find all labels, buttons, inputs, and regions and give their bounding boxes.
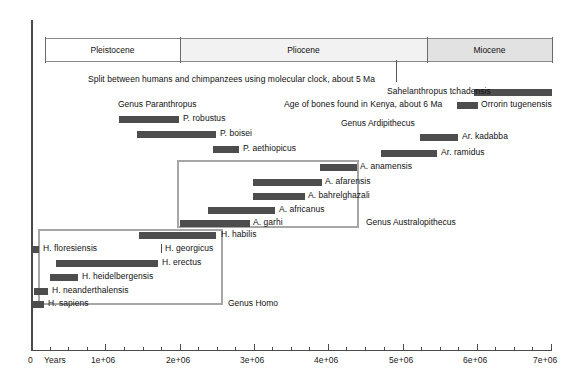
x-axis-minor-tick	[124, 347, 125, 351]
x-axis-minor-tick	[421, 347, 422, 351]
label-a-africanus: A. africanus	[279, 204, 324, 214]
genus-label-australopithecus: Genus Australopithecus	[366, 217, 456, 227]
x-axis-minor-tick	[346, 347, 347, 351]
x-axis-label-6e6: 6e+06	[463, 355, 487, 365]
label-h-habilis: H. habilis	[221, 229, 256, 239]
x-axis-label-1e6: 1e+06	[91, 355, 115, 365]
label-ar-ramidus: Ar. ramidus	[441, 147, 485, 157]
x-axis-minor-tick	[384, 347, 385, 351]
x-axis-label-4e6: 4e+06	[314, 355, 338, 365]
x-axis-tick-3e6	[254, 344, 255, 351]
label-a-garhi: A. garhi	[253, 217, 283, 227]
bar-a-bahrelghazali	[253, 193, 305, 200]
bar-h-erectus	[56, 260, 158, 267]
x-axis-label-2e6: 2e+06	[166, 355, 190, 365]
label-h-erectus: H. erectus	[162, 257, 201, 267]
x-axis-label-7e6: 7e+06	[533, 355, 557, 365]
x-axis-tick-2e6	[180, 344, 181, 351]
epoch-separator-pleistocene-pliocene	[180, 37, 181, 63]
epoch-label-pliocene: Pliocene	[287, 45, 320, 55]
x-axis-minor-tick	[235, 347, 236, 351]
label-p-robustus: P. robustus	[183, 113, 225, 123]
epoch-band-miocene: Miocene	[427, 38, 552, 62]
bar-p-aethiopicus	[213, 146, 239, 153]
epoch-band-pliocene: Pliocene	[180, 38, 427, 62]
x-axis-minor-tick	[495, 347, 496, 351]
epoch-separator-left	[45, 37, 46, 63]
x-axis-minor-tick	[532, 347, 533, 351]
label-h-floresiensis: H. floresiensis	[43, 243, 97, 253]
bar-h-habilis	[139, 232, 216, 239]
bar-orrorin-tugenensis	[457, 102, 478, 109]
x-axis-label-5e6: 5e+06	[389, 355, 413, 365]
x-axis-minor-tick	[68, 347, 69, 351]
x-axis-tick-1e6	[105, 344, 106, 351]
epoch-separator-pliocene-miocene	[427, 37, 428, 63]
label-sahelanthropus-tchadensis: Sahelanthropus tchadensis	[387, 86, 491, 96]
x-axis-tick-7e6	[551, 344, 552, 351]
x-axis-minor-tick	[87, 347, 88, 351]
label-h-georgicus: H. georgicus	[165, 243, 213, 253]
bar-p-robustus	[119, 116, 179, 123]
marker-line-5ma	[396, 60, 397, 82]
label-ar-kadabba: Ar. kadabba	[462, 131, 508, 141]
bar-a-anamensis	[320, 164, 357, 171]
label-a-bahrelghazali: A. bahrelghazali	[308, 190, 370, 200]
label-h-sapiens: H. sapiens	[48, 298, 89, 308]
bar-ar-kadabba	[420, 134, 458, 141]
bar-a-africanus	[208, 207, 275, 214]
bar-h-georgicus	[161, 244, 162, 253]
label-p-aethiopicus: P. aethiopicus	[243, 143, 296, 153]
bar-h-sapiens	[33, 301, 44, 308]
label-h-neanderthalensis: H. neanderthalensis	[52, 285, 129, 295]
x-axis-tick-5e6	[403, 344, 404, 351]
x-axis-minor-tick	[291, 347, 292, 351]
bar-a-afarensis	[253, 179, 322, 186]
bar-a-garhi	[180, 220, 250, 227]
label-a-anamensis: A. anamensis	[360, 161, 412, 171]
x-axis-minor-tick	[217, 347, 218, 351]
x-axis-minor-tick	[514, 347, 515, 351]
epoch-label-pleistocene: Pleistocene	[91, 45, 135, 55]
x-axis-minor-tick	[440, 347, 441, 351]
x-axis-minor-tick	[161, 347, 162, 351]
label-orrorin-tugenensis: Orrorin tugenensis	[481, 99, 552, 109]
bar-h-floresiensis	[33, 246, 39, 253]
x-axis-tick-0	[31, 344, 32, 351]
genus-label-paranthropus: Genus Paranthropus	[118, 99, 196, 109]
x-axis-minor-tick	[272, 347, 273, 351]
x-axis-label-3e6: 3e+06	[240, 355, 264, 365]
x-axis-tick-6e6	[477, 344, 478, 351]
label-p-boisei: P. boisei	[220, 128, 252, 138]
bar-h-heidelbergensis	[50, 274, 78, 281]
x-axis-minor-tick	[309, 347, 310, 351]
x-axis-tick-4e6	[328, 344, 329, 351]
x-axis-label-0: 0	[28, 355, 33, 365]
bar-p-boisei	[137, 131, 216, 138]
annotation-split-label: Split between humans and chimpanzees usi…	[88, 74, 375, 84]
label-a-afarensis: A. afarensis	[325, 176, 370, 186]
genus-label-homo: Genus Homo	[228, 298, 278, 308]
x-axis-minor-tick	[365, 347, 366, 351]
genus-label-ardipithecus: Genus Ardipithecus	[341, 118, 415, 128]
annotation-kenya-label: Age of bones found in Kenya, about 6 Ma	[284, 99, 442, 109]
x-axis-minor-tick	[143, 347, 144, 351]
epoch-separator-right	[552, 37, 553, 63]
bar-ar-ramidus	[381, 150, 437, 157]
x-axis-minor-tick	[458, 347, 459, 351]
bar-h-neanderthalensis	[34, 288, 48, 295]
label-h-heidelbergensis: H. heidelbergensis	[82, 271, 153, 281]
hominin-timeline-chart: Pleistocene Pliocene Miocene Split betwe…	[0, 0, 588, 379]
x-axis-minor-tick	[198, 347, 199, 351]
epoch-band-pleistocene: Pleistocene	[45, 38, 180, 62]
x-axis-minor-tick	[50, 347, 51, 351]
x-axis-unit-label: Years	[44, 355, 66, 365]
epoch-label-miocene: Miocene	[473, 45, 505, 55]
